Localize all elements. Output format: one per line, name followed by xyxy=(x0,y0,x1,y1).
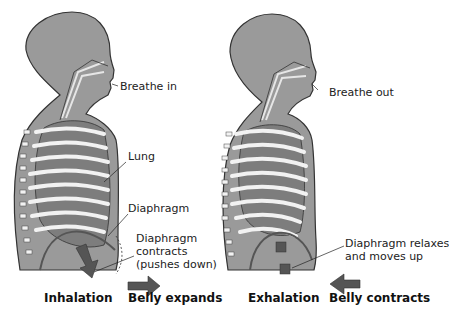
diaphragm-relaxes-line2: and moves up xyxy=(345,250,423,263)
diaphragm-contracts-line3: (pushes down) xyxy=(136,258,217,271)
breathe-in-label: Breathe in xyxy=(120,80,177,93)
diaphragm-up-block xyxy=(276,242,286,252)
belly-expands-caption: Belly expands xyxy=(128,291,222,305)
belly-contracts-caption: Belly contracts xyxy=(329,291,430,305)
diaphragm-relaxes-line1: Diaphragm relaxes xyxy=(345,237,449,250)
diaphragm-contracts-line1: Diaphragm xyxy=(136,232,197,245)
exhalation-caption: Exhalation xyxy=(248,291,319,305)
diaphragm-contracts-line2: contracts xyxy=(136,245,187,258)
lung-label: Lung xyxy=(128,150,155,163)
diaphragm-label: Diaphragm xyxy=(128,202,189,215)
exhalation-figure xyxy=(222,14,360,294)
breathe-out-label: Breathe out xyxy=(329,86,394,99)
inhalation-caption: Inhalation xyxy=(44,291,113,305)
